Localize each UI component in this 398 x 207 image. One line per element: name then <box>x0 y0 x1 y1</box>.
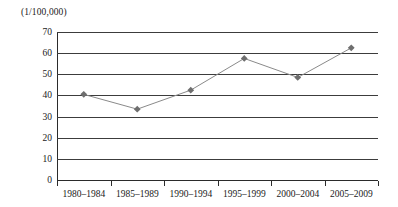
y-axis-tick-label: 50 <box>6 69 52 79</box>
y-axis-tick-label: 10 <box>6 154 52 164</box>
data-point-marker <box>241 55 248 62</box>
x-axis-tick-label: 1980–1984 <box>62 189 105 200</box>
x-axis-tick <box>57 181 58 186</box>
y-axis-tick-label: 0 <box>6 175 52 185</box>
x-axis-tick <box>218 181 219 186</box>
x-axis-tick <box>111 181 112 186</box>
y-axis-tick-label: 70 <box>6 27 52 37</box>
y-axis-tick-label: 30 <box>6 112 52 122</box>
y-axis-tick-label: 60 <box>6 48 52 58</box>
data-point-marker <box>80 91 87 98</box>
x-axis-tick <box>164 181 165 186</box>
x-axis-tick-labels: 1980–19841985–19891990–19941995–19992000… <box>57 189 378 203</box>
x-axis-tick-label: 2005–2009 <box>330 189 373 200</box>
y-axis-unit-title: (1/100,000) <box>21 6 67 18</box>
x-axis-tick <box>378 181 379 186</box>
data-point-marker <box>294 74 301 81</box>
line-chart: (1/100,000) 010203040506070 1980–1984198… <box>0 0 398 207</box>
data-point-marker <box>134 106 141 113</box>
data-point-marker <box>348 44 355 51</box>
x-axis-tick <box>325 181 326 186</box>
x-axis-tick-label: 1995–1999 <box>223 189 266 200</box>
data-series-line <box>57 32 378 180</box>
series-line <box>84 48 352 109</box>
x-axis-tick-label: 1985–1989 <box>116 189 159 200</box>
x-axis-tick-label: 1990–1994 <box>169 189 212 200</box>
data-point-marker <box>187 87 194 94</box>
y-axis-tick-labels: 010203040506070 <box>0 32 52 180</box>
plot-area <box>57 32 378 180</box>
y-axis-tick-label: 20 <box>6 133 52 143</box>
x-axis-tick-label: 2000–2004 <box>276 189 319 200</box>
x-axis-tick <box>271 181 272 186</box>
x-axis-ticks <box>57 181 378 187</box>
y-axis-tick-label: 40 <box>6 90 52 100</box>
